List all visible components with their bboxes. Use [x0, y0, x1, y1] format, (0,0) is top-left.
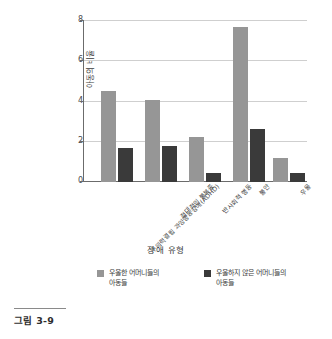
figure-container: 아동의 비율 8 6 4 2 0	[0, 0, 332, 339]
figure-caption: 그림 3-9	[14, 308, 134, 327]
bar-group-antisocial	[185, 20, 225, 182]
chart-plot-area: 아동의 비율 8 6 4 2 0	[0, 0, 332, 250]
bar-nondepressed-mothers-oppositional	[162, 146, 177, 182]
bar-group-depression	[269, 20, 309, 182]
caption-divider	[14, 308, 66, 309]
bar-nondepressed-mothers-anxiety	[250, 129, 265, 182]
bar-nondepressed-mothers-depression	[290, 173, 305, 182]
bar-depressed-mothers-oppositional	[145, 100, 160, 182]
bar-depressed-mothers-depression	[273, 158, 288, 182]
x-axis-title: 장애 유형	[0, 243, 332, 255]
y-axis-ticks: 8 6 4 2 0	[59, 20, 83, 182]
legend-label-nondepressed-mothers: 우울하지 않은 어머니들의 아동들	[216, 268, 286, 288]
bar-depressed-mothers-antisocial	[189, 137, 204, 182]
bar-depressed-mothers-anxiety	[233, 27, 248, 182]
bars-layer	[83, 20, 307, 182]
x-axis-tick-labels: 주의력결핍 과잉행동장애(ADHD) 적대적인 불복종 반사회적 행동 불안 우…	[83, 182, 307, 244]
bar-group-adhd	[97, 20, 137, 182]
legend-swatch-icon-light	[97, 270, 104, 277]
bar-nondepressed-mothers-adhd	[118, 148, 133, 182]
legend-swatch-icon-dark	[204, 270, 211, 277]
legend-item-depressed-mothers: 우울한 어머니들의 아동들	[97, 268, 159, 288]
bar-depressed-mothers-adhd	[101, 91, 116, 182]
legend-label-depressed-mothers: 우울한 어머니들의 아동들	[109, 268, 159, 288]
bar-group-anxiety	[229, 20, 269, 182]
chart-legend: 우울한 어머니들의 아동들 우울하지 않은 어머니들의 아동들	[0, 268, 332, 300]
x-tick-label-antisocial: 반사회적 행동	[220, 182, 254, 216]
x-tick-label-anxiety: 불안	[257, 182, 272, 197]
x-tick-label-oppositional: 적대적인 불복종	[178, 182, 216, 220]
legend-item-nondepressed-mothers: 우울하지 않은 어머니들의 아동들	[204, 268, 286, 288]
bar-nondepressed-mothers-antisocial	[206, 173, 221, 182]
caption-label: 그림 3-9	[14, 313, 134, 327]
bar-group-oppositional	[141, 20, 181, 182]
x-tick-label-depression: 우울	[298, 182, 313, 197]
